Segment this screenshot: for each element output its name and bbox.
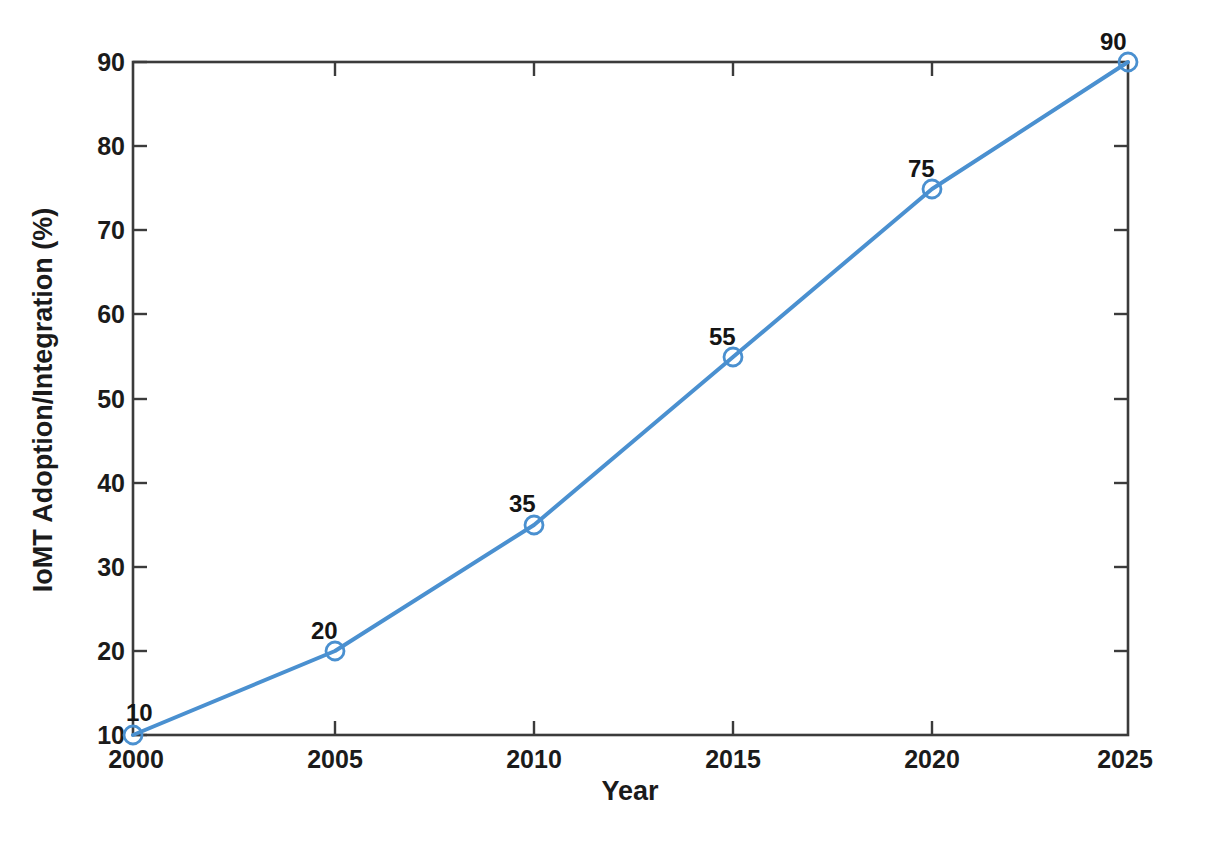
data-point-label: 35: [509, 490, 536, 517]
x-tick-label: 2005: [307, 745, 363, 773]
y-tick-label: 80: [97, 132, 125, 160]
x-tick-label: 2000: [108, 745, 164, 773]
x-tick-label: 2025: [1097, 745, 1153, 773]
data-point-label: 75: [908, 155, 935, 182]
x-tick-label: 2015: [705, 745, 761, 773]
y-tick-label: 70: [97, 216, 125, 244]
plot-frame: [133, 62, 1128, 735]
line-chart: 10 20 30 40 50 60 70 80 90 2000 2005 201…: [0, 0, 1206, 843]
x-tick-labels: 2000 2005 2010 2015 2020 2025: [108, 745, 1153, 773]
y-tick-labels: 10 20 30 40 50 60 70 80 90: [97, 48, 125, 749]
x-tick-marks-top: [335, 62, 932, 76]
y-tick-marks: [133, 62, 147, 735]
y-axis-title: IoMT Adoption/Integration (%): [28, 208, 58, 592]
data-point-labels: 10 20 35 55 75 90: [126, 28, 1127, 726]
y-tick-label: 40: [97, 469, 125, 497]
y-tick-label: 30: [97, 553, 125, 581]
series-line-iomt-adoption: [133, 62, 1128, 735]
x-tick-label: 2020: [904, 745, 960, 773]
chart-page: 10 20 30 40 50 60 70 80 90 2000 2005 201…: [0, 0, 1206, 843]
data-point-label: 90: [1100, 28, 1127, 55]
y-tick-label: 50: [97, 385, 125, 413]
data-point-label: 10: [126, 699, 153, 726]
x-axis-title: Year: [601, 776, 659, 806]
y-tick-label: 60: [97, 300, 125, 328]
y-tick-label: 20: [97, 637, 125, 665]
y-tick-marks-right: [1114, 146, 1128, 651]
x-tick-label: 2010: [506, 745, 562, 773]
data-point-label: 55: [709, 323, 736, 350]
x-tick-marks: [335, 721, 932, 735]
data-point-label: 20: [311, 617, 338, 644]
y-tick-label: 90: [97, 48, 125, 76]
